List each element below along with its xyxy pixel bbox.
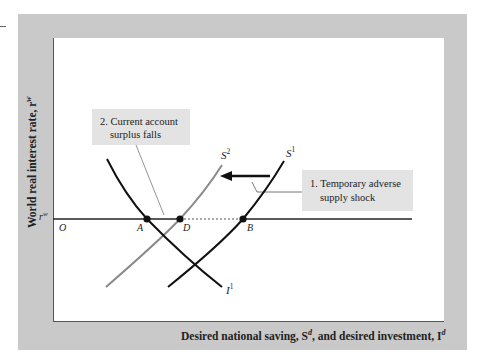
shock-callout-line1: 1. Temporary adverse	[310, 178, 401, 189]
origin-label: O	[59, 222, 66, 233]
shock-leader-line	[252, 182, 302, 192]
i1-label: I1	[225, 282, 234, 296]
s2-curve	[106, 165, 222, 287]
diagram-svg: A D B O rw S2 S1 I1 2. Current account s…	[0, 0, 479, 362]
surplus-callout-line1: 2. Current account	[100, 116, 178, 127]
point-b-label: B	[247, 222, 253, 233]
s1-label: S1	[286, 145, 296, 159]
shock-callout-box	[302, 170, 413, 211]
surplus-leader-line	[136, 145, 164, 215]
point-a-label: A	[136, 222, 144, 233]
shift-arrow-head-icon	[220, 171, 232, 181]
point-a-marker	[143, 215, 150, 222]
point-b-marker	[239, 215, 246, 222]
rate-label: rw	[39, 210, 48, 222]
i1-curve	[107, 159, 222, 287]
surplus-callout-line2: surplus falls	[110, 129, 161, 140]
point-d-label: D	[182, 222, 191, 233]
s2-label: S2	[221, 147, 231, 161]
shock-callout-line2: supply shock	[320, 192, 376, 203]
